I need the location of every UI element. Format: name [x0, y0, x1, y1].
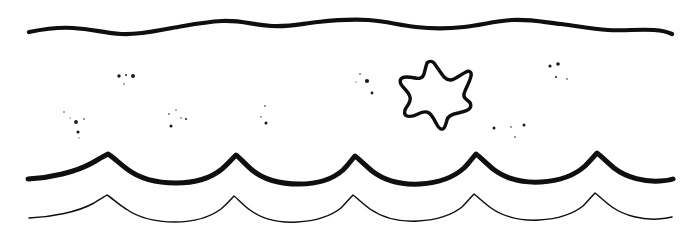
- ink-speck: [83, 118, 85, 120]
- ink-speck: [117, 74, 120, 77]
- ink-speck: [371, 92, 374, 95]
- canvas-background: [0, 0, 695, 235]
- ink-speck: [514, 136, 516, 138]
- ink-speck: [125, 74, 127, 76]
- ink-speck: [365, 79, 369, 83]
- ink-speck: [69, 117, 70, 118]
- ink-speck: [168, 113, 170, 115]
- ink-speck: [264, 105, 266, 107]
- ink-speck: [523, 124, 526, 127]
- ink-speck: [265, 122, 268, 125]
- ink-speck: [170, 125, 173, 128]
- ink-speck: [185, 118, 187, 120]
- ink-speck: [76, 130, 79, 133]
- ink-speck: [566, 78, 568, 80]
- ink-speck: [548, 64, 551, 67]
- ink-speck: [175, 109, 176, 110]
- ink-speck: [63, 111, 64, 112]
- ink-speck: [493, 127, 496, 130]
- ink-speck: [510, 126, 512, 128]
- ink-speck: [131, 74, 135, 78]
- ink-speck: [74, 120, 78, 124]
- artboard: [0, 0, 695, 235]
- ink-speck: [260, 116, 261, 117]
- line-art-canvas: [0, 0, 695, 235]
- ink-speck: [556, 62, 560, 66]
- ink-speck: [180, 117, 181, 118]
- ink-speck: [359, 73, 361, 75]
- ink-speck: [355, 81, 356, 82]
- ink-speck: [555, 76, 557, 78]
- ink-speck: [78, 137, 79, 138]
- ink-speck: [123, 83, 124, 84]
